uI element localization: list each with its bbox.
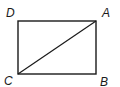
vertex-label-d: D <box>6 6 15 20</box>
vertex-label-b: B <box>100 75 108 87</box>
rectangle-diagram: D A C B <box>0 0 120 87</box>
vertex-label-c: C <box>4 74 13 87</box>
diagonal-ca <box>18 21 96 74</box>
vertex-label-a: A <box>101 6 110 20</box>
